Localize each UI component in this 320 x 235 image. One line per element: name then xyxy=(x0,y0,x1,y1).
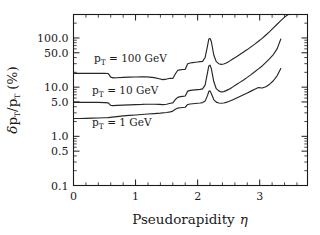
y-tick-label: 1.0 xyxy=(51,130,69,143)
x-axis-title: Pseudorapidityη xyxy=(132,211,248,227)
plot-frame xyxy=(74,15,308,186)
x-tick-label: 1 xyxy=(132,190,139,203)
curve-series-0 xyxy=(74,15,289,80)
y-tick-label: 50.0 xyxy=(44,47,69,60)
series-annotation-1: pT = 10 GeV xyxy=(92,84,159,99)
y-tick-label: 10.0 xyxy=(44,81,69,94)
x-tick-label: 2 xyxy=(194,190,201,203)
axis-ticks xyxy=(74,15,308,186)
x-tick-label: 0 xyxy=(70,190,77,203)
curve-series-1 xyxy=(74,39,281,106)
plot-svg: 0.10.51.05.010.050.0100.00123 pT = 100 G… xyxy=(0,0,320,235)
y-tick-label: 5.0 xyxy=(51,96,69,109)
y-tick-label: 0.5 xyxy=(51,145,69,158)
y-axis-title: δpT/pT(%) xyxy=(4,66,22,133)
series-annotation-0: pT = 100 GeV xyxy=(94,52,167,67)
y-tick-label: 0.1 xyxy=(51,180,69,193)
y-tick-label: 100.0 xyxy=(37,32,69,45)
chart-figure: 0.10.51.05.010.050.0100.00123 pT = 100 G… xyxy=(0,0,320,235)
curve-annotations: pT = 100 GeVpT = 10 GeVpT = 1 GeV xyxy=(92,52,167,131)
x-tick-label: 3 xyxy=(256,190,263,203)
